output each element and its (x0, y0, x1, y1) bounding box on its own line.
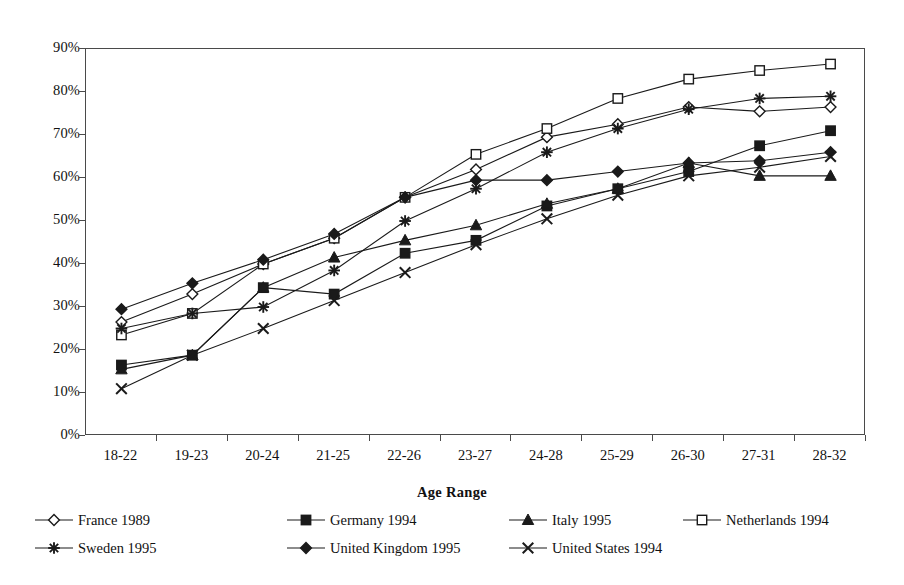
x-tick-label: 23-27 (435, 447, 515, 463)
open-diamond-icon (34, 512, 74, 528)
x-tick-label: 27-31 (719, 447, 799, 463)
y-tick-label: 80% (36, 83, 80, 98)
legend-item[interactable]: United Kingdom 1995 (286, 540, 461, 556)
x-axis: 18-2219-2320-2421-2522-2623-2724-2825-29… (85, 447, 865, 469)
legend-item-label: Germany 1994 (329, 513, 417, 528)
legend-item-label: United Kingdom 1995 (329, 541, 461, 556)
series-germany-1994 (117, 126, 835, 370)
series-france-1989 (116, 102, 836, 328)
filled-square-icon (286, 512, 326, 528)
y-tick-label: 20% (36, 341, 80, 356)
chart-page: 0%10%20%30%40%50%60%70%80%90% 18-2219-23… (0, 0, 904, 585)
y-tick-mark (79, 306, 85, 307)
x-tick-mark (723, 435, 724, 441)
y-tick-label: 70% (36, 126, 80, 141)
y-tick-label: 50% (36, 212, 80, 227)
x-tick-label: 28-32 (790, 447, 870, 463)
legend-item-label: United States 1994 (551, 541, 662, 556)
legend-item-label: Italy 1995 (551, 513, 611, 528)
legend-item[interactable]: Germany 1994 (286, 512, 417, 528)
chart-canvas (86, 49, 866, 436)
x-tick-mark (227, 435, 228, 441)
x-tick-label: 19-23 (151, 447, 231, 463)
x-tick-mark (298, 435, 299, 441)
y-tick-mark (79, 134, 85, 135)
x-tick-label: 20-24 (222, 447, 302, 463)
y-tick-label: 90% (36, 40, 80, 55)
y-tick-label: 30% (36, 298, 80, 313)
x-tick-label: 26-30 (648, 447, 728, 463)
chart-legend: France 1989Germany 1994Italy 1995Netherl… (34, 512, 874, 570)
x-tick-mark (865, 435, 866, 441)
y-tick-label: 10% (36, 384, 80, 399)
y-tick-label: 0% (36, 427, 80, 442)
x-tick-mark (369, 435, 370, 441)
x-tick-mark (581, 435, 582, 441)
y-tick-mark (79, 48, 85, 49)
x-tick-mark (794, 435, 795, 441)
y-tick-mark (79, 263, 85, 264)
x-axis-title: Age Range (0, 484, 904, 501)
x-tick-label: 24-28 (506, 447, 586, 463)
legend-item[interactable]: Netherlands 1994 (682, 512, 829, 528)
x-tick-mark (652, 435, 653, 441)
y-tick-mark (79, 220, 85, 221)
y-tick-label: 40% (36, 255, 80, 270)
x-tick-mark (156, 435, 157, 441)
x-tick-label: 18-22 (80, 447, 160, 463)
legend-item-label: France 1989 (77, 513, 150, 528)
legend-item-label: Sweden 1995 (77, 541, 157, 556)
x-tick-label: 25-29 (577, 447, 657, 463)
x-tick-mark (510, 435, 511, 441)
series-sweden-1995 (116, 91, 837, 335)
y-tick-label: 60% (36, 169, 80, 184)
legend-item-label: Netherlands 1994 (725, 513, 829, 528)
x-tick-label: 21-25 (293, 447, 373, 463)
y-tick-mark (79, 392, 85, 393)
x-tick-label: 22-26 (364, 447, 444, 463)
cross-x-icon (508, 540, 548, 556)
y-tick-mark (79, 435, 85, 436)
y-tick-mark (79, 349, 85, 350)
y-tick-mark (79, 177, 85, 178)
y-tick-mark (79, 91, 85, 92)
series-netherlands-1994 (117, 59, 835, 339)
asterisk-icon (34, 540, 74, 556)
filled-triangle-icon (508, 512, 548, 528)
legend-item[interactable]: United States 1994 (508, 540, 662, 556)
plot-area (85, 48, 865, 435)
x-tick-mark (440, 435, 441, 441)
legend-item[interactable]: France 1989 (34, 512, 150, 528)
legend-item[interactable]: Sweden 1995 (34, 540, 157, 556)
filled-diamond-icon (286, 540, 326, 556)
legend-item[interactable]: Italy 1995 (508, 512, 611, 528)
open-square-icon (682, 512, 722, 528)
